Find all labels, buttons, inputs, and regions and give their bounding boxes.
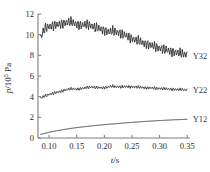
x-tick-label: 0.15 <box>69 141 84 151</box>
y-tick-labels: 024681012 <box>26 9 35 143</box>
figure-container: 0.100.150.200.250.300.35 024681012 Y32Y2… <box>0 0 210 172</box>
y-axis-divider: /10 <box>3 77 13 89</box>
y-axis-unit: Pa <box>3 63 13 74</box>
y-tick-label: 4 <box>30 92 35 102</box>
x-tick-label: 0.25 <box>125 141 140 151</box>
series-label-y22: Y22 <box>193 85 208 95</box>
y-tick-label: 8 <box>30 50 34 60</box>
y-tick-label: 12 <box>26 9 35 19</box>
curve-y32 <box>41 17 187 58</box>
series-labels: Y32Y22Y12 <box>193 51 208 124</box>
y-tick-label: 2 <box>30 112 34 122</box>
x-tick-label: 0.30 <box>152 141 167 151</box>
x-axis-unit: /s <box>113 155 120 165</box>
series-label-y12: Y12 <box>193 114 208 124</box>
x-axis-title: t/s <box>111 155 120 165</box>
x-tick-label: 0.20 <box>97 141 112 151</box>
y-tick-label: 10 <box>26 30 35 40</box>
data-curves <box>41 17 187 135</box>
tick-marks <box>38 14 187 138</box>
x-tick-labels: 0.100.150.200.250.300.35 <box>42 141 195 151</box>
series-label-y32: Y32 <box>193 51 208 61</box>
x-tick-label: 0.35 <box>180 141 195 151</box>
curve-y22 <box>41 85 187 99</box>
y-tick-label: 0 <box>30 133 34 143</box>
y-tick-label: 6 <box>30 71 34 81</box>
curve-y12 <box>41 119 187 134</box>
x-tick-label: 0.10 <box>42 141 57 151</box>
pressure-time-chart: 0.100.150.200.250.300.35 024681012 Y32Y2… <box>0 0 210 172</box>
y-axis-title: p/105 Pa <box>3 63 13 94</box>
axes <box>38 14 190 138</box>
